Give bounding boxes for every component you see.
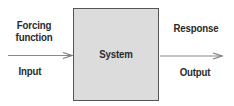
forcing-function-label: Forcing function [8, 19, 61, 43]
output-label: Output [173, 66, 217, 78]
forcing-line-2: function [8, 31, 61, 43]
response-label: Response [169, 22, 224, 34]
output-arrow [160, 53, 222, 59]
forcing-line-1: Forcing [8, 19, 61, 31]
input-label: Input [11, 65, 50, 77]
system-box: System [73, 8, 159, 101]
system-label: System [79, 48, 153, 60]
input-arrow [8, 53, 72, 59]
